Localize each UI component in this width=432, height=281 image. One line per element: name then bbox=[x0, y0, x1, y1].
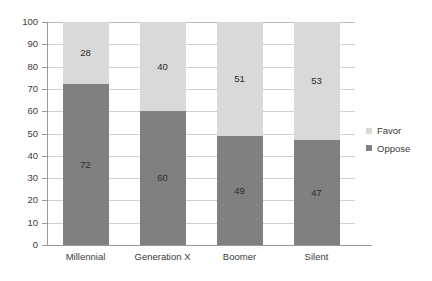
y-tick-label: 50 bbox=[0, 129, 38, 139]
y-tick-label: 30 bbox=[0, 173, 38, 183]
bar-value-label: 60 bbox=[157, 173, 168, 183]
bar-segment-oppose[interactable]: 72 bbox=[63, 84, 109, 245]
bar-segment-favor[interactable]: 53 bbox=[294, 22, 340, 140]
bar-segment-oppose[interactable]: 60 bbox=[140, 111, 186, 245]
bar-value-label: 51 bbox=[234, 74, 245, 84]
legend-label: Favor bbox=[377, 126, 401, 136]
y-tick-label: 60 bbox=[0, 106, 38, 116]
y-tick-label: 40 bbox=[0, 151, 38, 161]
bar-group[interactable]: 4060 bbox=[140, 22, 186, 245]
bar-value-label: 72 bbox=[80, 160, 91, 170]
bar-value-label: 49 bbox=[234, 186, 245, 196]
y-tick-label: 90 bbox=[0, 39, 38, 49]
x-axis-line bbox=[47, 245, 372, 246]
bar-group[interactable]: 5347 bbox=[294, 22, 340, 245]
y-tick-label: 80 bbox=[0, 62, 38, 72]
bar-value-label: 53 bbox=[311, 76, 322, 86]
y-tick-label: 20 bbox=[0, 195, 38, 205]
bar-group[interactable]: 5149 bbox=[217, 22, 263, 245]
legend-item[interactable]: Favor bbox=[366, 126, 410, 136]
bar-value-label: 47 bbox=[311, 188, 322, 198]
bar-segment-favor[interactable]: 51 bbox=[217, 22, 263, 136]
legend-swatch-icon bbox=[366, 128, 372, 134]
stacked-bar-chart: 0102030405060708090100 2872406051495347 … bbox=[0, 0, 432, 281]
legend-swatch-icon bbox=[366, 145, 372, 151]
bar-segment-oppose[interactable]: 47 bbox=[294, 140, 340, 245]
y-tick-label: 10 bbox=[0, 218, 38, 228]
bar-segment-oppose[interactable]: 49 bbox=[217, 136, 263, 245]
y-tick-label: 100 bbox=[0, 17, 38, 27]
bar-value-label: 28 bbox=[80, 48, 91, 58]
y-tick-label: 0 bbox=[0, 240, 38, 250]
legend: FavorOppose bbox=[366, 126, 410, 161]
plot-area: 2872406051495347 bbox=[47, 22, 355, 245]
y-tick-label: 70 bbox=[0, 84, 38, 94]
bar-segment-favor[interactable]: 28 bbox=[63, 22, 109, 84]
bar-value-label: 40 bbox=[157, 62, 168, 72]
bar-segment-favor[interactable]: 40 bbox=[140, 22, 186, 111]
legend-label: Oppose bbox=[377, 144, 410, 154]
legend-item[interactable]: Oppose bbox=[366, 144, 410, 154]
x-axis-category-label: Silent bbox=[262, 252, 372, 262]
bar-group[interactable]: 2872 bbox=[63, 22, 109, 245]
